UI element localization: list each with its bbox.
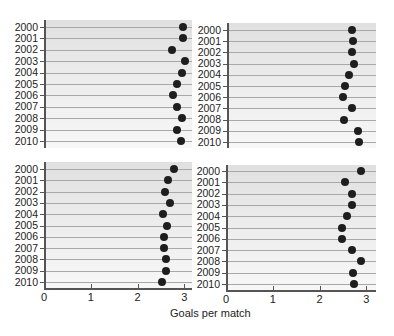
data-point [338,235,346,243]
x-axis-line [44,288,192,290]
gridline [44,130,192,131]
data-point [350,280,358,288]
gridline [44,141,192,142]
y-tick-label: 2009 [183,125,221,136]
y-tick-label: 2005 [0,79,38,90]
gridline [44,38,192,39]
gridline [44,84,192,85]
data-point [348,190,356,198]
data-point [338,224,346,232]
y-tick-label: 2000 [0,22,38,33]
data-point [349,269,357,277]
y-tick-label: 2000 [182,166,220,177]
y-tick-label: 2010 [183,137,221,148]
gridline [44,248,192,249]
data-point [348,26,356,34]
data-point [168,46,176,54]
x-tick-label: 0 [216,293,236,305]
y-axis-line [44,20,46,148]
data-point [343,212,351,220]
data-point [161,188,169,196]
y-axis-line [227,23,229,148]
x-tick-label: 3 [174,291,194,303]
y-tick-label: 2010 [0,136,38,147]
gridline [44,282,192,283]
gridline [227,120,376,121]
y-axis-line [44,162,46,288]
data-point [163,222,171,230]
gridline [227,86,376,87]
x-tick [273,286,274,290]
gridline [226,239,376,240]
y-tick-label: 2009 [0,124,38,135]
y-tick-label: 2008 [0,113,38,124]
x-tick-label: 3 [356,293,376,305]
gridline [226,171,376,172]
x-tick [320,286,321,290]
data-point [348,246,356,254]
gridline [226,228,376,229]
y-tick-label: 2006 [0,90,38,101]
data-point [350,60,358,68]
gridline [227,142,376,143]
y-tick-label: 2006 [182,233,220,244]
x-tick-label: 0 [34,291,54,303]
x-tick-label: 2 [310,293,330,305]
y-tick-label: 2007 [182,245,220,256]
y-axis-line [226,165,228,290]
y-tick-label: 2007 [0,101,38,112]
y-tick-label: 2003 [0,56,38,67]
y-tick-label: 2000 [0,164,38,175]
x-tick-label: 1 [81,291,101,303]
y-tick-label: 2007 [0,243,38,254]
y-tick-label: 2000 [183,25,221,36]
data-point [355,138,363,146]
gridline [44,27,192,28]
y-tick-label: 2004 [183,69,221,80]
x-axis-line [226,290,376,292]
y-tick-label: 2003 [0,197,38,208]
y-tick-label: 2004 [0,67,38,78]
x-tick [138,284,139,288]
x-tick [91,284,92,288]
y-tick-label: 2010 [182,279,220,290]
gridline [44,73,192,74]
x-axis-title: Goals per match [170,307,251,319]
y-tick-label: 2003 [182,199,220,210]
gridline [226,261,376,262]
y-tick-label: 2001 [0,33,38,44]
gridline [44,107,192,108]
data-point [348,201,356,209]
data-point [341,82,349,90]
y-tick-label: 2002 [0,44,38,55]
data-point [339,93,347,101]
y-tick-label: 2009 [182,267,220,278]
gridline [44,214,192,215]
y-tick-label: 2010 [0,277,38,288]
data-point [340,116,348,124]
data-point [173,126,181,134]
data-point [162,267,170,275]
gridline [226,182,376,183]
x-tick-label: 1 [263,293,283,305]
gridline [227,75,376,76]
data-point [357,167,365,175]
data-point [354,127,362,135]
x-tick [226,286,227,290]
gridline [44,61,192,62]
data-point [345,71,353,79]
gridline [44,192,192,193]
y-tick-label: 2006 [0,231,38,242]
gridline [226,216,376,217]
x-tick-label: 2 [128,291,148,303]
gridline [44,118,192,119]
gridline [227,97,376,98]
x-tick [44,284,45,288]
y-tick-label: 2005 [183,81,221,92]
y-tick-label: 2009 [0,265,38,276]
x-tick [366,286,367,290]
gridline [44,237,192,238]
